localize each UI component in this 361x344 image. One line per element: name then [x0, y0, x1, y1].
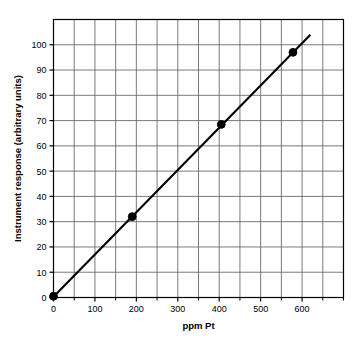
y-tick-label: 30	[36, 217, 46, 227]
data-point-marker	[128, 213, 136, 221]
y-axis-title: Instrument response (arbitrary units)	[12, 75, 23, 242]
x-tick-label: 300	[170, 304, 185, 314]
x-tick-label: 400	[212, 304, 227, 314]
x-tick-label: 100	[87, 304, 102, 314]
y-tick-label: 10	[36, 268, 46, 278]
y-tick-label: 20	[36, 242, 46, 252]
x-axis-title: ppm Pt	[182, 320, 215, 331]
x-tick-label: 200	[129, 304, 144, 314]
data-point-marker	[50, 292, 58, 300]
y-tick-label: 100	[31, 40, 46, 50]
data-point-marker	[289, 48, 297, 56]
calibration-chart: 0100200300400500600 01020304050607080901…	[0, 0, 361, 344]
y-tick-label: 70	[36, 116, 46, 126]
x-tick-label: 600	[295, 304, 310, 314]
y-tick-label: 50	[36, 167, 46, 177]
y-tick-label: 90	[36, 65, 46, 75]
y-tick-label: 60	[36, 141, 46, 151]
y-tick-label: 40	[36, 192, 46, 202]
chart-container: 0100200300400500600 01020304050607080901…	[0, 0, 361, 344]
y-tick-label: 0	[41, 293, 46, 303]
y-tick-label: 80	[36, 91, 46, 101]
data-point-marker	[217, 120, 225, 128]
x-tick-label: 500	[253, 304, 268, 314]
x-tick-label: 0	[51, 304, 56, 314]
